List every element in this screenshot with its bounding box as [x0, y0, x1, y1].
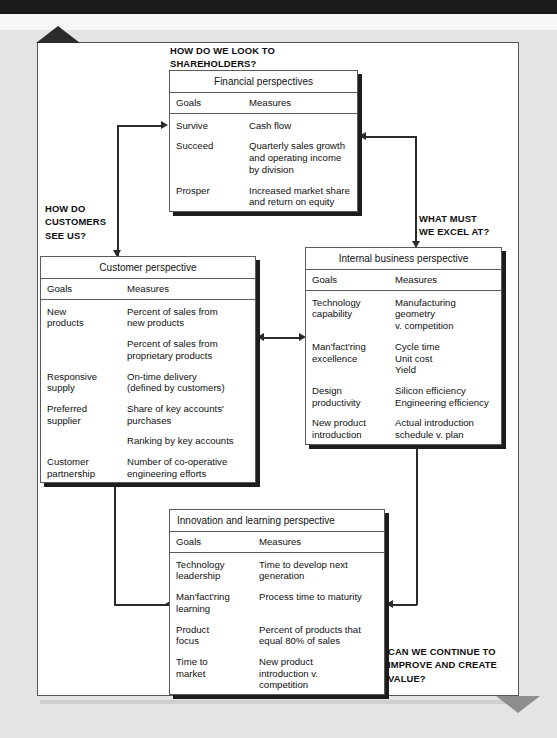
measure-cell: Percent of products that equal 80% of sa… — [253, 618, 384, 650]
connector-customer-to-financial-horizontal — [117, 125, 163, 127]
measure-cell: Percent of sales from new products — [121, 299, 255, 332]
table-row: Preferred supplier Share of key accounts… — [41, 397, 255, 429]
table-row: Time to market New product introduction … — [170, 650, 384, 694]
arrowhead-into-financial-right — [359, 132, 366, 140]
question-label-excel: WHAT MUST WE EXCEL AT? — [419, 212, 489, 239]
perspective-table: Goals Measures Technology leadership Tim… — [170, 532, 384, 694]
goal-cell: Succeed — [170, 134, 243, 178]
arrowhead-into-innovation-right — [386, 600, 393, 608]
connector-innovation-to-customer-vertical — [114, 478, 116, 605]
goal-cell: Technology leadership — [170, 552, 253, 585]
table-row: Man'fact'ring learning Process time to m… — [170, 585, 384, 617]
column-header-goals: Goals — [41, 279, 121, 299]
table-row: Prosper Increased market share and retur… — [170, 179, 357, 211]
column-header-goals: Goals — [170, 532, 253, 552]
goal-cell: Man'fact'ring learning — [170, 585, 253, 617]
box-title: Financial perspectives — [170, 71, 357, 93]
measure-cell: Percent of sales from proprietary produc… — [121, 332, 255, 364]
measure-cell: Actual introduction schedule v. plan — [389, 411, 501, 443]
box-innovation-learning-perspective: Innovation and learning perspective Goal… — [169, 509, 385, 695]
table-row: Design productivity Silicon efficiency E… — [306, 379, 501, 411]
top-white-band — [0, 14, 557, 30]
table-row: Percent of sales from proprietary produc… — [41, 332, 255, 364]
goal-cell: Time to market — [170, 650, 253, 694]
box-title: Customer perspective — [41, 257, 255, 279]
goal-cell: Technology capability — [306, 290, 389, 335]
perspective-table: Goals Measures Technology capability Man… — [306, 270, 501, 444]
table-row: Product focus Percent of products that e… — [170, 618, 384, 650]
connector-innovation-to-customer-horizontal — [114, 604, 171, 606]
question-label-customers: HOW DO CUSTOMERS SEE US? — [45, 202, 106, 242]
box-customer-perspective: Customer perspective Goals Measures New … — [40, 256, 256, 483]
table-row: Responsive supply On-time delivery (defi… — [41, 365, 255, 397]
table-header-row: Goals Measures — [170, 93, 357, 113]
table-header-row: Goals Measures — [170, 532, 384, 552]
column-header-measures: Measures — [389, 270, 501, 290]
measure-cell: Quarterly sales growth and operating inc… — [243, 134, 357, 178]
goal-cell: New products — [41, 299, 121, 332]
measure-cell: Time to develop next generation — [253, 552, 384, 585]
box-title: Internal business perspective — [306, 248, 501, 270]
table-row: Ranking by key accounts — [41, 429, 255, 450]
table-row: Technology capability Manufacturing geom… — [306, 290, 501, 335]
goal-cell — [41, 429, 121, 450]
measure-cell: Silicon efficiency Engineering efficienc… — [389, 379, 501, 411]
measure-cell: Process time to maturity — [253, 585, 384, 617]
connector-internal-to-financial-horizontal — [366, 136, 416, 138]
table-row: Technology leadership Time to develop ne… — [170, 552, 384, 585]
connector-innovation-to-internal-vertical — [416, 445, 418, 605]
triangle-marker-top-left-icon — [36, 26, 80, 43]
box-financial-perspective: Financial perspectives Goals Measures Su… — [169, 70, 358, 212]
measure-cell: Number of co-operative engineering effor… — [121, 450, 255, 482]
column-header-goals: Goals — [306, 270, 389, 290]
connector-customer-to-financial-vertical — [117, 125, 119, 256]
table-header-row: Goals Measures — [41, 279, 255, 299]
column-header-goals: Goals — [170, 93, 243, 113]
goal-cell: Responsive supply — [41, 365, 121, 397]
question-label-shareholders: HOW DO WE LOOK TO SHAREHOLDERS? — [170, 44, 275, 71]
goal-cell — [41, 332, 121, 364]
question-label-improve: CAN WE CONTINUE TO IMPROVE AND CREATE VA… — [388, 645, 497, 685]
goal-cell: New product introduction — [306, 411, 389, 443]
table-header-row: Goals Measures — [306, 270, 501, 290]
measure-cell: Manufacturing geometry v. competition — [389, 290, 501, 335]
table-row: New products Percent of sales from new p… — [41, 299, 255, 332]
sheet-shadow — [40, 700, 522, 704]
goal-cell: Prosper — [170, 179, 243, 211]
measure-cell: Increased market share and return on equ… — [243, 179, 357, 211]
column-header-measures: Measures — [243, 93, 357, 113]
goal-cell: Product focus — [170, 618, 253, 650]
perspective-table: Goals Measures New products Percent of s… — [41, 279, 255, 482]
box-internal-business-perspective: Internal business perspective Goals Meas… — [305, 247, 502, 445]
measure-cell: Share of key accounts' purchases — [121, 397, 255, 429]
goal-cell: Survive — [170, 113, 243, 134]
triangle-marker-bottom-right-icon — [496, 696, 540, 713]
measure-cell: On-time delivery (defined by customers) — [121, 365, 255, 397]
goal-cell: Customer partnership — [41, 450, 121, 482]
arrowhead-into-financial-left — [161, 121, 168, 129]
table-row: Succeed Quarterly sales growth and opera… — [170, 134, 357, 178]
connector-internal-to-financial-vertical — [415, 136, 417, 247]
table-row: New product introduction Actual introduc… — [306, 411, 501, 443]
table-row: Survive Cash flow — [170, 113, 357, 134]
connector-customer-internal-horizontal — [263, 337, 301, 339]
measure-cell: New product introduction v. competition — [253, 650, 384, 694]
column-header-measures: Measures — [121, 279, 255, 299]
perspective-table: Goals Measures Survive Cash flow Succeed… — [170, 93, 357, 211]
column-header-measures: Measures — [253, 532, 384, 552]
table-row: Man'fact'ring excellence Cycle time Unit… — [306, 335, 501, 379]
measure-cell: Ranking by key accounts — [121, 429, 255, 450]
measure-cell: Cash flow — [243, 113, 357, 134]
connector-innovation-to-internal-horizontal — [392, 604, 417, 606]
table-row: Customer partnership Number of co-operat… — [41, 450, 255, 482]
top-dark-band — [0, 0, 557, 14]
box-title: Innovation and learning perspective — [170, 510, 384, 532]
goal-cell: Preferred supplier — [41, 397, 121, 429]
goal-cell: Design productivity — [306, 379, 389, 411]
measure-cell: Cycle time Unit cost Yield — [389, 335, 501, 379]
goal-cell: Man'fact'ring excellence — [306, 335, 389, 379]
arrowhead-into-customer-right — [257, 333, 264, 341]
